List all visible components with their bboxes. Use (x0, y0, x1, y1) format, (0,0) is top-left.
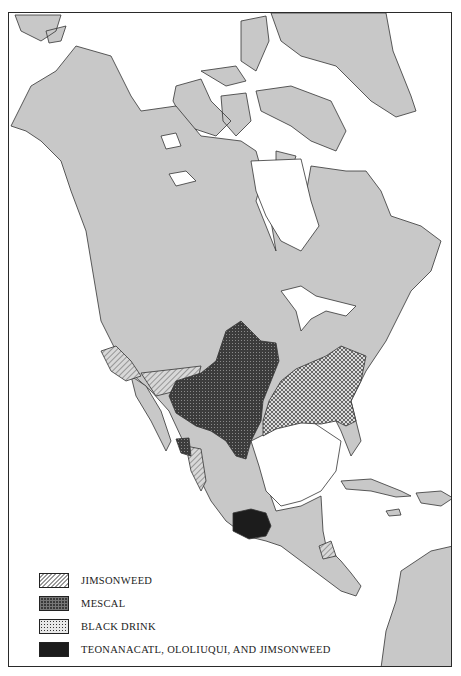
south-america (381, 546, 452, 667)
jamaica (386, 509, 401, 516)
legend-label: TEONANACATL, OLOLIUQUI, AND JIMSONWEED (81, 644, 331, 655)
legend-item-teonanacatl: TEONANACATL, OLOLIUQUI, AND JIMSONWEED (39, 638, 331, 661)
legend-item-jimsonweed: JIMSONWEED (39, 569, 331, 592)
legend-label: BLACK DRINK (81, 621, 156, 632)
cuba (341, 479, 411, 497)
region-teonanacatl (233, 509, 271, 539)
legend-item-mescal: MESCAL (39, 592, 331, 615)
map-frame: JIMSONWEED MESCAL BLACK DRINK TEONANACAT… (8, 12, 452, 667)
legend-label: MESCAL (81, 598, 125, 609)
map-legend: JIMSONWEED MESCAL BLACK DRINK TEONANACAT… (39, 569, 331, 661)
mescal-swatch-icon (39, 596, 69, 611)
north-america-mainland (11, 46, 441, 596)
black-drink-swatch-icon (39, 619, 69, 634)
legend-item-black-drink: BLACK DRINK (39, 615, 331, 638)
jimsonweed-swatch-icon (39, 573, 69, 588)
legend-label: JIMSONWEED (81, 575, 152, 586)
hispaniola (416, 491, 452, 506)
teonanacatl-swatch-icon (39, 642, 69, 657)
region-mescal-sonora (176, 438, 191, 456)
alaska-small-islands (15, 15, 66, 43)
